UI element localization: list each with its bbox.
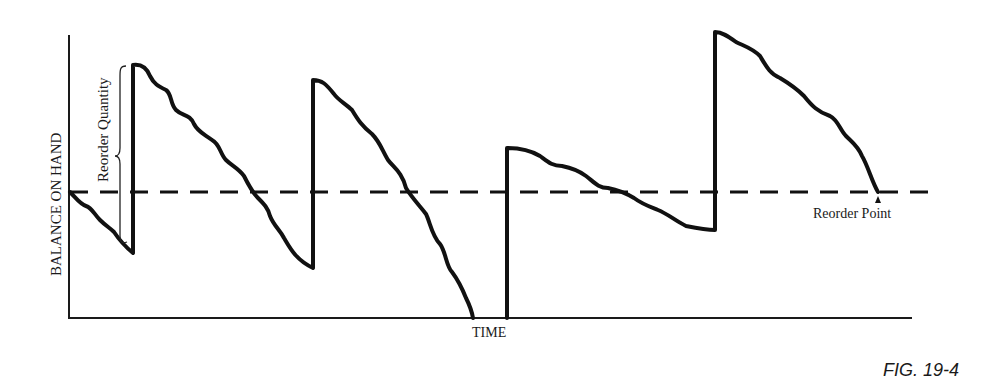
inventory-figure: BALANCE ON HAND Reorder Quantity TIME Re… [0, 0, 989, 381]
reorder-point-arrow-icon [875, 196, 881, 203]
reorder-point-label: Reorder Point [813, 206, 891, 221]
reorder-quantity-label: Reorder Quantity [95, 77, 111, 182]
y-axis-label: BALANCE ON HAND [48, 133, 64, 276]
x-axis-label: TIME [472, 325, 506, 340]
figure-caption: FIG. 19-4 [883, 360, 959, 380]
reorder-quantity-brace [115, 66, 127, 243]
balance-curve [70, 32, 878, 318]
